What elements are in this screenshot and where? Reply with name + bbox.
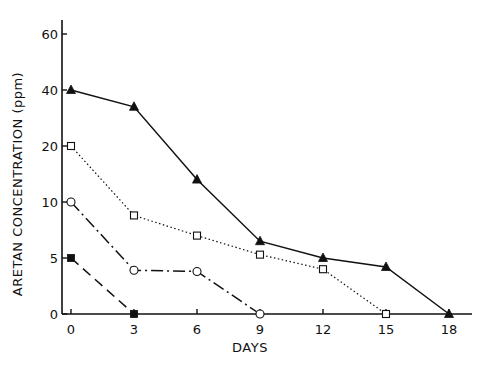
x-tick-label: 18 xyxy=(441,322,458,337)
data-point-open-square xyxy=(383,311,390,318)
series-filled-square xyxy=(68,255,138,318)
y-tick-label: 60 xyxy=(41,27,58,42)
series-line xyxy=(71,258,134,314)
data-point-open-square xyxy=(68,143,75,150)
data-point-filled-square xyxy=(68,255,75,262)
axes xyxy=(62,20,472,314)
data-point-open-square xyxy=(194,232,201,239)
y-tick-label: 5 xyxy=(50,251,58,266)
data-point-open-square xyxy=(131,212,138,219)
chart: 05102040600369121518DAYSARETAN CONCENTRA… xyxy=(0,0,492,374)
x-tick-label: 9 xyxy=(256,322,264,337)
series-group xyxy=(67,85,454,318)
data-point-filled-square xyxy=(131,311,138,318)
y-tick-label: 20 xyxy=(41,139,58,154)
x-tick-label: 12 xyxy=(315,322,332,337)
data-point-open-circle xyxy=(256,310,264,318)
data-point-open-circle xyxy=(193,267,201,275)
y-tick-label: 40 xyxy=(41,83,58,98)
data-point-open-circle xyxy=(130,266,138,274)
series-line xyxy=(71,90,449,314)
data-point-filled-triangle xyxy=(67,85,76,94)
data-point-open-square xyxy=(257,251,264,258)
x-axis-title: DAYS xyxy=(232,340,268,355)
series-filled-triangle xyxy=(67,85,454,318)
x-tick-label: 6 xyxy=(193,322,201,337)
series-open-square xyxy=(68,143,390,318)
x-tick-label: 15 xyxy=(378,322,395,337)
y-tick-label: 0 xyxy=(50,307,58,322)
y-axis-title: ARETAN CONCENTRATION (ppm) xyxy=(10,72,25,296)
data-point-open-circle xyxy=(67,198,75,206)
data-point-open-square xyxy=(320,266,327,273)
x-tick-label: 0 xyxy=(67,322,75,337)
series-line xyxy=(71,146,386,314)
y-tick-label: 10 xyxy=(41,195,58,210)
series-line xyxy=(71,202,260,314)
axis-labels: 05102040600369121518DAYSARETAN CONCENTRA… xyxy=(10,27,457,355)
x-tick-label: 3 xyxy=(130,322,138,337)
